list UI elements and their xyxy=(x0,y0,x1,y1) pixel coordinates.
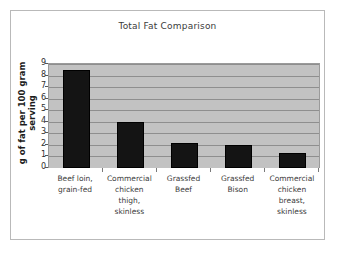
x-axis-category-label: Grassfed Bison xyxy=(211,173,265,239)
y-axis-tick-mark xyxy=(45,155,48,156)
bar xyxy=(171,143,198,168)
x-axis-category-label: Beef loin, grain-fed xyxy=(48,173,102,239)
bar xyxy=(63,70,90,168)
y-axis-tick-label: 7 xyxy=(16,82,46,90)
y-axis-tick-label: 5 xyxy=(16,105,46,113)
x-axis-tick-mark xyxy=(156,168,157,172)
x-axis-tick-mark xyxy=(264,168,265,172)
y-axis-tick-label: 6 xyxy=(16,94,46,102)
y-axis-tick-mark xyxy=(45,109,48,110)
y-axis-tick-label: 3 xyxy=(16,128,46,136)
x-axis-tick-mark xyxy=(210,168,211,172)
chart-title: Total Fat Comparison xyxy=(11,21,324,31)
x-axis-category-label: Grassfed Beef xyxy=(156,173,210,239)
y-axis-tick-mark xyxy=(45,63,48,64)
x-axis-category-label: Commercial chicken thigh, skinless xyxy=(102,173,156,239)
y-axis-tick-label: 4 xyxy=(16,117,46,125)
y-axis-tick-mark xyxy=(45,132,48,133)
x-axis-category-labels: Beef loin, grain-fedCommercial chicken t… xyxy=(48,173,319,239)
bar xyxy=(117,122,144,168)
y-axis-tick-labels: 9876543210 xyxy=(13,11,46,241)
x-axis-category-label: Commercial chicken breast, skinless xyxy=(265,173,319,239)
x-axis-tick-mark xyxy=(318,168,319,172)
y-axis-tick-label: 9 xyxy=(16,59,46,67)
y-axis-tick-mark xyxy=(45,167,48,168)
y-axis-tick-label: 0 xyxy=(16,163,46,171)
bar xyxy=(225,145,252,168)
y-axis-tick-mark xyxy=(45,144,48,145)
bars-layer xyxy=(49,64,319,168)
plot-area xyxy=(48,63,320,168)
y-axis-tick-label: 8 xyxy=(16,71,46,79)
bar xyxy=(279,153,306,168)
y-axis-tick-label: 2 xyxy=(16,140,46,148)
y-axis-tick-label: 1 xyxy=(16,151,46,159)
y-axis-tick-mark xyxy=(45,86,48,87)
y-axis-tick-mark xyxy=(45,98,48,99)
chart-frame: Total Fat Comparison g of fat per 100 gr… xyxy=(10,10,325,240)
y-axis-tick-mark xyxy=(45,75,48,76)
y-axis-tick-mark xyxy=(45,121,48,122)
x-axis-tick-mark xyxy=(102,168,103,172)
